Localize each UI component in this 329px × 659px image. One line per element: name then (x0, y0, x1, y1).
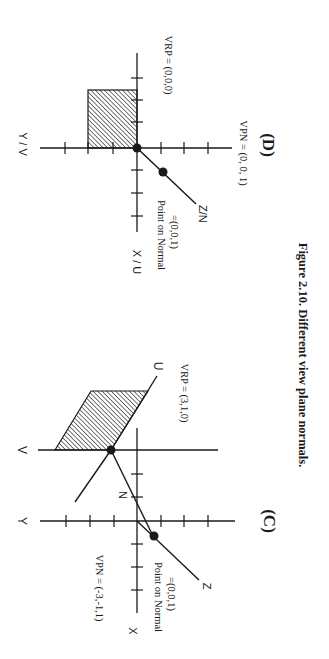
origin-point-d (133, 144, 142, 153)
figure-canvas: Y / V X / U Z/N VRP = (0,0,0) VPN = (0, … (0, 0, 329, 659)
point-on-normal-label-c-line1: Point on Normal (153, 562, 164, 632)
vrp-extension-line-c (75, 450, 111, 502)
v-axis-label-c: V (15, 446, 29, 454)
y-v-axis-label-d: Y / V (17, 132, 29, 156)
point-on-normal-label-c-line2: =(0,0,1) (165, 577, 177, 611)
z-axis-label-c: Z (201, 583, 213, 590)
figure-caption: Figure 2.10. Different view plane normal… (296, 243, 310, 468)
vrp-label-c: VRP = (3,1,0) (178, 363, 190, 423)
x-u-axis-label-d: X / U (131, 250, 143, 275)
u-axis-label-c: U (151, 362, 165, 371)
panel-d-tag: (D) (259, 133, 278, 157)
point-on-normal-label-d-line2: =(0,0,1) (168, 215, 180, 249)
point-on-normal-c (150, 532, 159, 541)
z-n-axis-d (137, 148, 196, 204)
x-axis-label-c: X (127, 627, 139, 635)
view-window-c (55, 391, 148, 450)
view-window-d (88, 90, 137, 148)
z-axis-c (137, 521, 199, 580)
panel-c: V U Y N X Z VRP = (3,1,0) VPN = (-3,-1,1… (15, 362, 279, 636)
vrp-point-c (107, 446, 116, 455)
panel-d: Y / V X / U Z/N VRP = (0,0,0) VPN = (0, … (17, 35, 278, 274)
point-on-normal-d (159, 168, 168, 177)
y-axis-label-c: Y (15, 517, 29, 525)
z-n-axis-label-d: Z/N (197, 205, 209, 223)
vpn-label-c: VPN = (-3,-1,1) (93, 554, 105, 622)
point-on-normal-label-d-line1: Point on Normal (156, 200, 167, 270)
vpn-label-d: VPN = (0, 0, 1) (237, 120, 249, 186)
vrp-label-d: VRP = (0,0,0) (162, 35, 174, 95)
panel-c-tag: (C) (260, 509, 279, 533)
n-axis-label-c: N (117, 491, 129, 499)
